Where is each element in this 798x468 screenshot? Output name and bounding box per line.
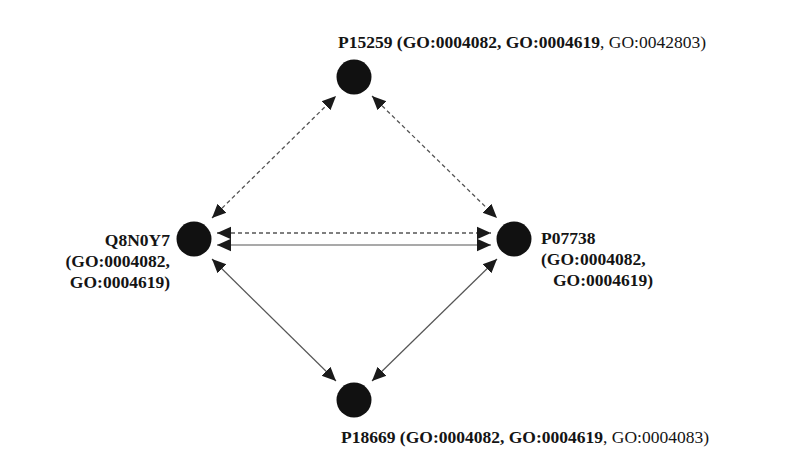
go-term-bold: GO:0004619) bbox=[65, 272, 170, 293]
go-term-bold: GO:0004082 bbox=[406, 427, 500, 447]
protein-id: P15259 bbox=[338, 32, 392, 52]
node-label-p07738: P07738 (GO:0004082, GO:0004619) bbox=[541, 228, 653, 291]
go-term-bold: GO:0004619 bbox=[509, 427, 603, 447]
node-label-q8n0y7: Q8N0Y7 (GO:0004082, GO:0004619) bbox=[65, 230, 170, 293]
go-term-bold: GO:0004082 bbox=[403, 32, 497, 52]
edge-q8n0y7-p15259-dashed bbox=[212, 96, 336, 218]
separator: , bbox=[600, 32, 609, 52]
go-term-bold: (GO:0004082, bbox=[65, 251, 170, 272]
edge-q8n0y7-p18669-solid bbox=[212, 259, 336, 381]
node-p15259 bbox=[337, 60, 372, 95]
node-p18669 bbox=[337, 383, 372, 418]
protein-id: Q8N0Y7 bbox=[65, 230, 170, 251]
protein-id: P18669 bbox=[341, 427, 395, 447]
edge-p07738-p18669-solid bbox=[372, 259, 497, 381]
go-term-bold: GO:0004619) bbox=[541, 270, 653, 291]
paren-close: ) bbox=[700, 32, 706, 52]
go-term-bold: GO:0004619 bbox=[506, 32, 600, 52]
node-p07738 bbox=[497, 222, 532, 257]
paren-open: ( bbox=[392, 32, 402, 52]
go-term-bold: (GO:0004082, bbox=[541, 249, 653, 270]
separator: , bbox=[603, 427, 612, 447]
paren-open: ( bbox=[395, 427, 405, 447]
node-label-p18669: P18669 (GO:0004082, GO:0004619, GO:00040… bbox=[341, 427, 709, 448]
go-term-normal: GO:0004083 bbox=[612, 427, 703, 447]
node-q8n0y7 bbox=[177, 222, 212, 257]
separator: , bbox=[500, 427, 509, 447]
edges-group bbox=[212, 96, 497, 381]
separator: , bbox=[497, 32, 506, 52]
nodes-group bbox=[177, 60, 532, 418]
protein-id: P07738 bbox=[541, 228, 653, 249]
node-label-p15259: P15259 (GO:0004082, GO:0004619, GO:00428… bbox=[338, 32, 706, 53]
paren-close: ) bbox=[703, 427, 709, 447]
edge-p15259-p07738-dashed bbox=[372, 96, 497, 218]
go-term-normal: GO:0042803 bbox=[609, 32, 700, 52]
